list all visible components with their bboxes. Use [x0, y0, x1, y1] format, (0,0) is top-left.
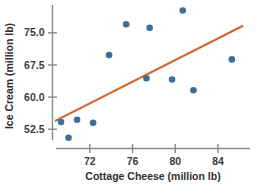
data-point — [74, 117, 81, 124]
data-point — [58, 119, 65, 126]
data-point — [143, 75, 150, 82]
data-point — [179, 7, 186, 14]
scatter-chart: 52.560.067.575.0 72768084 Cottage Cheese… — [0, 0, 256, 186]
y-axis-title: Ice Cream (million lb) — [3, 23, 15, 129]
trend-line — [56, 26, 243, 121]
y-axis-tick-labels: 52.560.067.575.0 — [24, 26, 45, 134]
data-point — [90, 119, 97, 126]
x-tick-label: 80 — [169, 155, 181, 167]
data-point — [229, 56, 236, 63]
y-tick-label: 60.0 — [24, 91, 45, 103]
chart-canvas: 52.560.067.575.0 72768084 Cottage Cheese… — [0, 0, 256, 186]
x-axis-title: Cottage Cheese (million lb) — [85, 170, 220, 182]
y-tick-label: 52.5 — [24, 123, 45, 135]
data-point — [65, 134, 72, 141]
y-axis: 52.560.067.575.0 — [24, 5, 57, 140]
data-point — [123, 21, 130, 28]
x-axis-tick-labels: 72768084 — [84, 155, 224, 167]
y-tick-label: 67.5 — [24, 59, 45, 71]
x-tick-label: 72 — [84, 155, 96, 167]
x-tick-label: 84 — [212, 155, 224, 167]
data-point — [106, 52, 113, 59]
y-tick-label: 75.0 — [24, 26, 45, 38]
x-tick-label: 76 — [127, 155, 139, 167]
data-point — [146, 24, 153, 31]
data-point — [169, 76, 176, 83]
data-point — [190, 87, 197, 94]
x-axis: 72768084 — [56, 144, 250, 167]
